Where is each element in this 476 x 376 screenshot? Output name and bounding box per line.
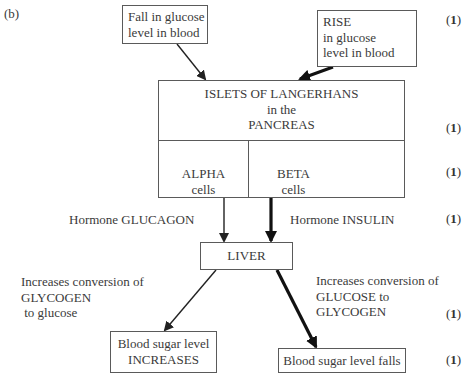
islets-line-3: PANCREAS: [159, 117, 404, 133]
rise-line-2: in glucose: [323, 30, 416, 46]
glucagon-label: Hormone GLUCAGON: [69, 212, 194, 228]
islets-header: ISLETS OF LANGERHANS in the PANCREAS: [159, 86, 404, 141]
right-effect-line-2: GLUCOSE to: [316, 289, 439, 305]
right-effect-label: Increases conversion of GLUCOSE to GLYCO…: [316, 273, 439, 320]
beta-line-1: BETA: [249, 166, 338, 182]
rise-line-3: level in blood: [323, 45, 416, 61]
arrow-liver-to-increases: [165, 270, 216, 330]
mark-4: (1): [446, 211, 461, 227]
fall-line-1: Fall in glucose: [128, 9, 207, 25]
arrow-rise-to-islets: [300, 67, 333, 79]
mark-6: (1): [446, 352, 461, 368]
blood-sugar-falls-box: Blood sugar level falls: [278, 348, 406, 373]
fall-line-2: level in blood: [128, 25, 207, 41]
increases-line-2: INCREASES: [111, 352, 216, 368]
liver-box: LIVER: [200, 242, 293, 270]
increases-line-1: Blood sugar level: [111, 336, 216, 352]
fall-in-glucose-box: Fall in glucose level in blood: [122, 5, 208, 44]
right-effect-line-3: GLYCOGEN: [316, 304, 439, 320]
mark-2: (1): [446, 120, 461, 136]
arrow-fall-to-islets: [177, 44, 205, 79]
left-effect-line-2: GLYCOGEN: [21, 290, 144, 306]
alpha-line-2: cells: [159, 182, 248, 198]
mark-1: (1): [446, 12, 461, 28]
left-effect-label: Increases conversion of GLYCOGEN to gluc…: [21, 274, 144, 321]
mark-5: (1): [446, 306, 461, 322]
rise-line-1: RISE: [323, 14, 416, 30]
beta-line-2: cells: [249, 182, 338, 198]
islets-line-1: ISLETS OF LANGERHANS: [159, 86, 404, 102]
alpha-line-1: ALPHA: [159, 166, 248, 182]
mark-3: (1): [446, 164, 461, 180]
beta-cells: BETA cells: [249, 166, 338, 197]
islets-of-langerhans-box: ISLETS OF LANGERHANS in the PANCREAS ALP…: [158, 80, 405, 198]
left-effect-line-3: to glucose: [21, 305, 144, 321]
left-effect-line-1: Increases conversion of: [21, 274, 144, 290]
falls-label: Blood sugar level falls: [283, 353, 400, 368]
blood-sugar-increases-box: Blood sugar level INCREASES: [110, 331, 217, 373]
islets-line-2: in the: [159, 102, 404, 118]
right-effect-line-1: Increases conversion of: [316, 273, 439, 289]
rise-in-glucose-box: RISE in glucose level in blood: [317, 10, 417, 67]
liver-label: LIVER: [227, 248, 265, 263]
alpha-cells: ALPHA cells: [159, 166, 248, 197]
insulin-label: Hormone INSULIN: [290, 212, 394, 228]
arrow-liver-to-falls: [277, 270, 316, 347]
islets-divider-horizontal: [159, 140, 404, 141]
